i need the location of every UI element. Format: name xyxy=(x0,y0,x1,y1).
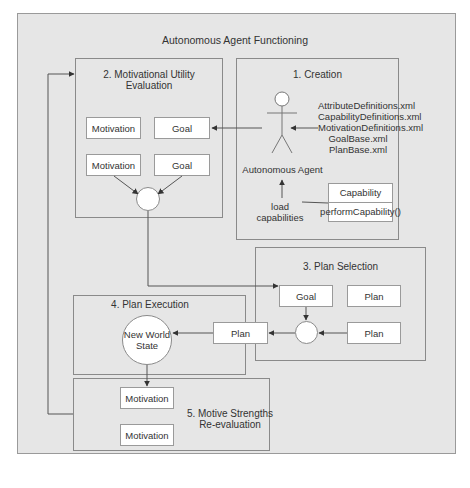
capability-class-name: Capability xyxy=(329,184,392,203)
plan-selection-node xyxy=(295,321,318,344)
autonomous-agent-label: Autonomous Agent xyxy=(240,164,325,175)
panel-motive-reevaluation-title: 5. Motive Strengths Re-evaluation xyxy=(185,408,275,430)
goal-box: Goal xyxy=(154,154,210,176)
motivation-box: Motivation xyxy=(120,424,174,446)
plan-box: Plan xyxy=(347,285,401,307)
definition-files-list: AttributeDefinitions.xml CapabilityDefin… xyxy=(318,100,398,155)
motivation-box: Motivation xyxy=(120,387,174,409)
panel-plan-selection-title: 3. Plan Selection xyxy=(255,261,426,272)
plan-box: Plan xyxy=(213,322,268,344)
panel-plan-execution-title: 4. Plan Execution xyxy=(110,299,190,310)
file-capability-definitions: CapabilityDefinitions.xml xyxy=(318,111,398,122)
goal-box: Goal xyxy=(279,285,333,307)
utility-evaluation-node xyxy=(136,187,160,211)
new-world-state-node: New World State xyxy=(122,315,172,365)
motivation-box: Motivation xyxy=(86,154,141,176)
file-goal-base: GoalBase.xml xyxy=(318,133,398,144)
motivation-box: Motivation xyxy=(86,117,141,139)
panel-motivational-utility-title: 2. Motivational Utility Evaluation xyxy=(75,69,223,91)
file-plan-base: PlanBase.xml xyxy=(318,144,398,155)
capability-class-box: Capability performCapability() xyxy=(328,183,393,222)
file-attribute-definitions: AttributeDefinitions.xml xyxy=(318,100,398,111)
goal-box: Goal xyxy=(154,117,210,139)
plan-box: Plan xyxy=(347,322,401,344)
load-capabilities-label: load capabilities xyxy=(250,201,310,223)
capability-class-method: performCapability() xyxy=(329,203,392,222)
panel-creation-title: 1. Creation xyxy=(236,69,399,80)
diagram-title: Autonomous Agent Functioning xyxy=(0,34,470,46)
file-motivation-definitions: MotivationDefinitions.xml xyxy=(318,122,398,133)
